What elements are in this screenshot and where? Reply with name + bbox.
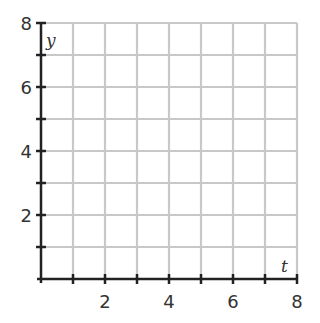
y-axis-label: y [45, 30, 56, 50]
x-axis-label: t [281, 256, 288, 276]
y-tick-label: 4 [21, 141, 32, 162]
grid-lines [41, 23, 297, 279]
y-tick-label: 2 [21, 205, 32, 226]
x-tick-label: 6 [227, 291, 238, 312]
x-tick-label: 4 [163, 291, 174, 312]
x-tick-label: 8 [291, 291, 302, 312]
y-tick-label: 6 [21, 77, 32, 98]
y-tick-label: 8 [21, 13, 32, 34]
x-tick-label: 2 [99, 291, 110, 312]
tick-labels: 24682468 [21, 13, 303, 312]
coordinate-grid: 24682468 y t [0, 0, 320, 323]
axes [37, 23, 297, 283]
tick-marks [36, 23, 297, 284]
